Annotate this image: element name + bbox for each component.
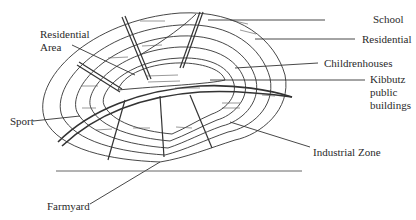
label-residential-area-line2: Area [40, 41, 90, 54]
label-sport: Sport [10, 115, 34, 128]
label-residential: Residential [362, 33, 412, 46]
label-childrenhouses: Childrenhouses [324, 57, 392, 70]
label-farmyard: Farmyard [47, 200, 90, 213]
label-residential-area: Residential Area [40, 28, 90, 54]
label-industrial-zone: Industrial Zone [313, 146, 381, 159]
kibbutz-plan-diagram: School Residential Residential Area Chil… [0, 0, 416, 220]
label-residential-area-line1: Residential [40, 28, 90, 41]
label-kibbutz-public-buildings: Kibbutz public buildings [370, 73, 411, 112]
label-kibbutz-line1: Kibbutz [370, 73, 411, 86]
label-kibbutz-line2: public [370, 86, 411, 99]
main-road [58, 86, 292, 146]
label-school: School [373, 13, 404, 26]
label-kibbutz-line3: buildings [370, 99, 411, 112]
